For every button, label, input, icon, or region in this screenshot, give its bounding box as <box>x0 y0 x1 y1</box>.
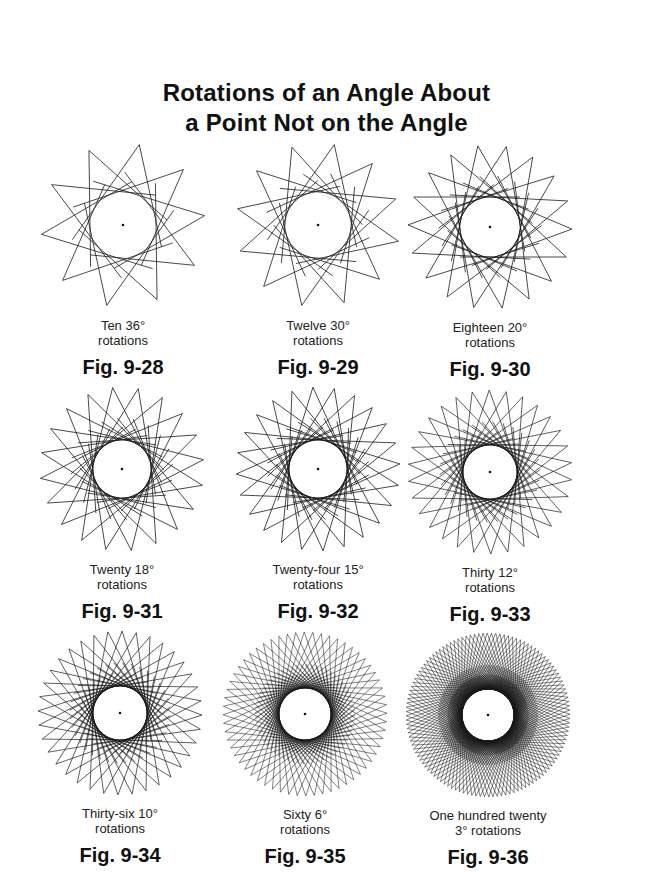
figure-label: Fig. 9-36 <box>388 846 588 868</box>
center-point-icon <box>489 471 492 474</box>
figure-caption-line-1: Thirty-six 10° <box>20 807 220 822</box>
rotated-angle-diagram <box>32 379 212 559</box>
figure-caption-line-2: rotations <box>23 334 223 349</box>
center-point-icon <box>122 224 125 227</box>
rotated-angle-diagram <box>400 382 580 562</box>
center-point-icon <box>487 714 490 717</box>
figure-caption-line-2: rotations <box>218 578 418 593</box>
figure-caption-line-1: Eighteen 20° <box>390 321 590 336</box>
figure-caption-line-2: 3° rotations <box>388 824 588 839</box>
figure-caption-line-1: Twenty 18° <box>22 563 222 578</box>
center-point-icon <box>121 468 124 471</box>
rotated-angle-diagram <box>228 135 408 315</box>
figure-label: Fig. 9-30 <box>390 358 590 380</box>
figure-caption-line-1: Twelve 30° <box>218 319 418 334</box>
figure-label: Fig. 9-28 <box>23 356 223 378</box>
figure-caption-line-2: rotations <box>20 822 220 837</box>
figure-panel: Thirty-six 10°rotationsFig. 9-34 <box>20 623 220 866</box>
figure-panel: Sixty 6°rotationsFig. 9-35 <box>205 624 405 867</box>
figure-caption-line-2: rotations <box>390 336 590 351</box>
figure-caption-line-1: Ten 36° <box>23 319 223 334</box>
figure-caption-line-2: rotations <box>22 578 222 593</box>
figure-panel: Twenty-four 15°rotationsFig. 9-32 <box>218 379 418 622</box>
center-point-icon <box>304 713 307 716</box>
figure-panel: Ten 36°rotationsFig. 9-28 <box>23 135 223 378</box>
figure-caption-line-2: rotations <box>205 823 405 838</box>
rotated-angle-diagram <box>398 625 578 805</box>
figure-panel: Eighteen 20°rotationsFig. 9-30 <box>390 137 590 380</box>
center-point-icon <box>317 224 320 227</box>
figure-panel: Thirty 12°rotationsFig. 9-33 <box>390 382 590 625</box>
rotated-angle-diagram <box>215 624 395 804</box>
rotated-angle-diagram <box>33 135 213 315</box>
figure-label: Fig. 9-31 <box>22 600 222 622</box>
center-point-icon <box>119 712 122 715</box>
figure-label: Fig. 9-34 <box>20 844 220 866</box>
figure-label: Fig. 9-32 <box>218 600 418 622</box>
figure-caption-line-1: Thirty 12° <box>390 566 590 581</box>
figure-label: Fig. 9-29 <box>218 356 418 378</box>
figure-caption-line-1: Twenty-four 15° <box>218 563 418 578</box>
figure-caption-line-1: Sixty 6° <box>205 808 405 823</box>
rotated-angle-diagram <box>400 137 580 317</box>
rotated-angle-diagram <box>228 379 408 559</box>
figure-caption-line-1: One hundred twenty <box>388 809 588 824</box>
center-point-icon <box>317 468 320 471</box>
rotated-angle-diagram <box>30 623 210 803</box>
page-title-line-1: Rotations of an Angle About <box>0 78 653 108</box>
figure-label: Fig. 9-33 <box>390 603 590 625</box>
figure-caption-line-2: rotations <box>218 334 418 349</box>
figure-panel: Twelve 30°rotationsFig. 9-29 <box>218 135 418 378</box>
figure-caption-line-2: rotations <box>390 581 590 596</box>
center-point-icon <box>489 226 492 229</box>
figure-label: Fig. 9-35 <box>205 845 405 867</box>
figure-panel: Twenty 18°rotationsFig. 9-31 <box>22 379 222 622</box>
page-title-line-2: a Point Not on the Angle <box>0 108 653 138</box>
figure-panel: One hundred twenty3° rotationsFig. 9-36 <box>388 625 588 868</box>
